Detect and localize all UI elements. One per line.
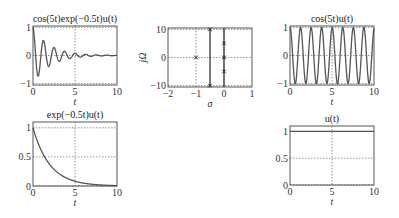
x-axis-label: σ: [208, 98, 214, 109]
x-tick-label: 0: [31, 187, 36, 198]
x-axis-label: t: [74, 96, 77, 107]
x-axis-label: t: [331, 196, 334, 207]
y-tick-label: 1: [283, 22, 288, 33]
x-tick-label: 0: [288, 186, 293, 197]
y-tick-label: −10: [150, 80, 166, 91]
y-tick-label: 1: [26, 22, 31, 33]
x-tick-label: 1: [250, 88, 255, 99]
plot-p3: 0510−101cos(5t)u(t)t: [277, 13, 379, 107]
x-axis-label: t: [331, 96, 334, 107]
y-tick-label: 0: [283, 50, 288, 61]
x-tick-label: 0: [222, 88, 227, 99]
plot-title: cos(5t)exp(−0.5t)u(t): [33, 13, 117, 25]
plot-p1: 0510−101cos(5t)exp(−0.5t)u(t)t: [20, 13, 122, 107]
x-tick-label: 0: [31, 86, 36, 97]
axes-box: [290, 126, 374, 185]
x-tick-label: 0: [288, 86, 293, 97]
y-tick-label: 0: [26, 181, 31, 192]
x-tick-label: 10: [369, 186, 379, 197]
plot-p2: −2−101−10010σjΩ: [137, 24, 255, 109]
y-tick-label: 10: [156, 24, 166, 35]
y-tick-label: 1: [283, 126, 288, 137]
y-axis-label: jΩ: [137, 52, 148, 64]
y-tick-label: 0: [26, 50, 31, 61]
x-tick-label: 10: [112, 86, 122, 97]
plot-title: u(t): [325, 113, 339, 125]
x-tick-label: −1: [191, 88, 202, 99]
x-axis-label: t: [74, 197, 77, 208]
plot-p5: 051000.51u(t)t: [276, 113, 380, 207]
plot-title: cos(5t)u(t): [311, 13, 353, 25]
y-tick-label: 1: [26, 122, 31, 133]
y-tick-label: −1: [20, 78, 31, 89]
x-tick-label: 10: [112, 187, 122, 198]
y-tick-label: 0: [161, 52, 166, 63]
y-tick-label: 0.5: [276, 153, 289, 164]
x-tick-label: 10: [369, 86, 379, 97]
figure: 0510−101cos(5t)exp(−0.5t)u(t)t−2−101−100…: [0, 0, 399, 218]
plot-title: exp(−0.5t)u(t): [47, 109, 103, 121]
y-tick-label: 0.5: [19, 151, 32, 162]
plot-p4: 051000.51exp(−0.5t)u(t)t: [19, 109, 123, 208]
y-tick-label: 0: [283, 180, 288, 191]
y-tick-label: −1: [277, 78, 288, 89]
